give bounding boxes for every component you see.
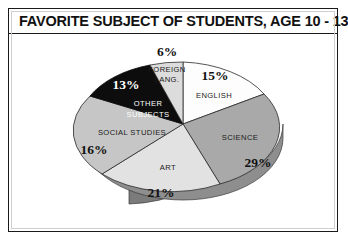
page-title: FAVORITE SUBJECT OF STUDENTS, AGE 10 - 1…: [9, 13, 348, 29]
label-social-studies-pct: 16%: [81, 142, 108, 157]
label-science-name: SCIENCE: [222, 133, 259, 142]
label-english-pct: 15%: [202, 68, 229, 83]
label-other-subjects-name-line1: OTHER: [134, 99, 163, 108]
label-science-pct: 29%: [245, 155, 272, 170]
label-foreign-lang-name-line1: FOREIGN: [148, 65, 185, 74]
label-social-studies-name: SOCIAL STUDIES: [98, 128, 166, 137]
label-foreign-lang-pct: 6%: [157, 44, 177, 59]
label-art-pct: 21%: [148, 185, 175, 200]
pie-chart-svg: 15% ENGLISH SCIENCE 29% ART 21% SOCIAL S…: [9, 34, 339, 232]
label-other-subjects-pct: 13%: [113, 77, 140, 92]
pie-chart-plot-area: 15% ENGLISH SCIENCE 29% ART 21% SOCIAL S…: [9, 34, 337, 232]
chart-title-bar: FAVORITE SUBJECT OF STUDENTS, AGE 10 - 1…: [9, 9, 337, 34]
label-other-subjects-name-line2: SUBJECTS: [127, 110, 170, 119]
label-foreign-lang-name-line2: LANG.: [155, 75, 180, 84]
label-art-name: ART: [160, 163, 176, 172]
label-english-name: ENGLISH: [196, 91, 232, 100]
chart-frame: FAVORITE SUBJECT OF STUDENTS, AGE 10 - 1…: [8, 8, 338, 232]
